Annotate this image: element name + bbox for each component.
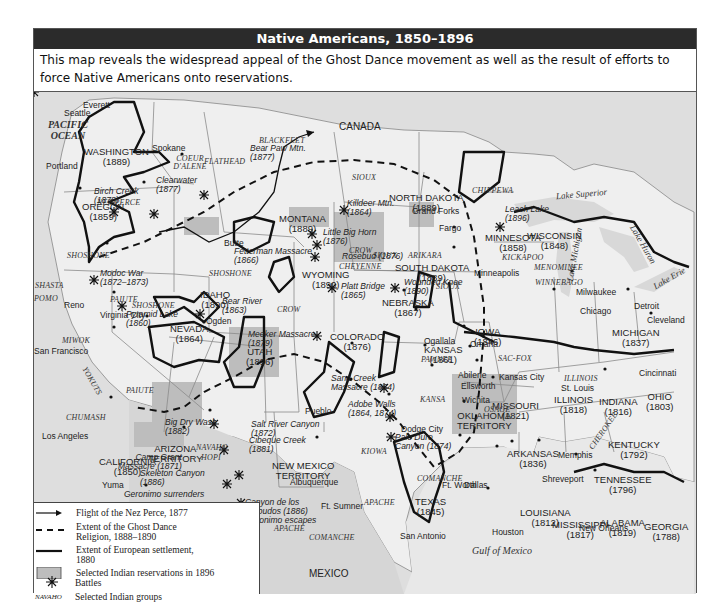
label-battle-rosebud: Rosebud (1876) xyxy=(342,252,403,261)
label-battle-modoc-war: Modoc War(1872–1873) xyxy=(100,269,148,287)
label-gulf-of-mexico: Gulf of Mexico xyxy=(472,546,532,557)
label-tribe-arikara: ARIKARA xyxy=(408,252,442,260)
label-city-pueblo: Pueblo xyxy=(305,407,331,416)
label-mexico: MEXICO xyxy=(309,569,348,580)
label-battle-leach-lake: Leach Lake(1896) xyxy=(505,205,549,223)
label-city-omaha: Omaha xyxy=(470,340,498,349)
label-tribe-sioux-1: SIOUX xyxy=(352,174,376,182)
label-state-utah: UTAH(1896) xyxy=(246,347,273,367)
map-title: Native Americans, 1850–1896 xyxy=(34,29,696,49)
label-battle-adobe-walls: Adobe Walls(1864, 1874) xyxy=(348,400,396,418)
label-tribe-navaho: NAVAHO xyxy=(196,444,228,452)
label-tribe-paiute-1: PAIUTE xyxy=(110,296,138,304)
label-city-ellsworth: Ellsworth xyxy=(461,382,495,391)
label-state-montana: MONTANA(1889) xyxy=(279,214,326,234)
label-tribe-kiowa: KIOWA xyxy=(361,448,387,456)
label-city-los-angeles: Los Angeles xyxy=(42,432,88,441)
label-tribe-crow-2: CROW xyxy=(277,306,300,314)
label-tribe-pawnee: PAWNEE xyxy=(421,356,452,364)
label-tribe-chippewa: CHIPPEWA xyxy=(472,187,513,195)
label-battle-clearwater: Clearwater(1877) xyxy=(156,176,197,194)
map-canvas: PACIFICOCEAN Gulf of Mexico CANADA MEXIC… xyxy=(34,91,696,594)
label-city-memphis: Memphis xyxy=(558,451,592,460)
label-battle-meeker: Meeker Massacre(1879) xyxy=(248,330,316,348)
label-tribe-apache-3: APACHE xyxy=(364,499,395,507)
solid-line-icon xyxy=(34,545,64,557)
label-city-ogden: Ogden xyxy=(206,317,232,326)
label-city-fargo: Fargo xyxy=(439,224,461,233)
map-figure: Native Americans, 1850–1896 This map rev… xyxy=(33,28,697,593)
label-tribe-kansa: KANSA xyxy=(420,396,445,404)
label-city-portland: Portland xyxy=(46,162,78,171)
label-city-milwaukee: Milwaukee xyxy=(576,288,616,297)
label-city-ft-sumner: Ft. Sumner xyxy=(321,502,363,511)
label-state-ohio: OHIO(1803) xyxy=(646,392,673,412)
label-city-san-antonio: San Antonio xyxy=(400,532,446,541)
label-tribe-shoshone-1: SHOSHONE xyxy=(67,252,110,260)
label-city-albuquerque: Albuquerque xyxy=(290,478,338,487)
group-sample-label: NAVAHO xyxy=(35,592,62,602)
label-tribe-flathead: FLATHEAD xyxy=(204,158,245,166)
label-canada: CANADA xyxy=(339,122,381,133)
label-city-wichita: Wichita xyxy=(462,396,490,405)
label-tribe-shasta: SHASTA xyxy=(35,282,64,290)
label-battle-skeleton-canyon: Skeleton Canyon(1886) xyxy=(140,469,205,487)
label-city-yuma: Yuma xyxy=(102,481,124,490)
label-tribe-menominee: MENOMINEE xyxy=(534,264,583,272)
label-tribe-apache-2: APACHE xyxy=(274,525,305,533)
label-state-michigan: MICHIGAN(1837) xyxy=(612,328,660,348)
label-city-reno: Reno xyxy=(64,301,84,310)
label-city-shreveport: Shreveport xyxy=(542,475,584,484)
label-tribe-miwok: MIWOK xyxy=(62,337,90,345)
label-battle-killdeer: Killdeer Mtn.(1864) xyxy=(347,199,394,217)
label-state-texas: TEXAS(1845) xyxy=(415,497,446,517)
label-city-ogallala: Ogallala xyxy=(424,337,455,346)
label-tribe-paiute-2: PAIUTE xyxy=(126,387,154,395)
label-city-new-orleans: New Orleans xyxy=(579,524,628,533)
label-city-cincinnati: Cincinnati xyxy=(639,369,676,378)
label-state-nebraska: NEBRASKA(1867) xyxy=(382,298,434,318)
label-battle-cibeque: Cibeque Creek(1881) xyxy=(249,436,306,454)
dashed-line-icon xyxy=(34,524,64,536)
label-tribe-comanche-2: COMANCHE xyxy=(417,475,463,483)
label-tribe-pomo: POMO xyxy=(34,295,58,303)
label-battle-pyramid-lake: Pyramid Lake(1860) xyxy=(126,310,178,328)
label-city-dallas: Dallas xyxy=(464,481,488,490)
arrow-line-icon xyxy=(34,507,64,519)
label-tribe-shoshone-2: SHOSHONE xyxy=(209,270,252,278)
label-tribe-chumash: CHUMASH xyxy=(66,414,106,422)
label-city-houston: Houston xyxy=(492,528,524,537)
label-battle-bear-paw: Bear Paw Mtn.(1877) xyxy=(250,144,306,162)
label-battle-sand-creek: Sand CreekMassacre (1864) xyxy=(331,374,395,392)
label-state-kentucky: KENTUCKY(1792) xyxy=(608,440,660,460)
label-city-kansas-city: Kansas City xyxy=(499,373,544,382)
label-tribe-comanche-1: COMANCHE xyxy=(309,534,355,542)
label-city-san-francisco: San Francisco xyxy=(34,347,88,356)
label-city-st-louis: St. Louis xyxy=(561,384,594,393)
label-city-abilene: Abilene xyxy=(458,371,486,380)
label-state-tennessee: TENNESSEE(1796) xyxy=(594,475,652,495)
label-city-chicago: Chicago xyxy=(580,307,611,316)
label-state-illinois: ILLINOIS(1818) xyxy=(554,395,593,415)
label-battle-birch-creek: Birch Creek(1878) xyxy=(94,187,138,205)
label-battle-geronimo-surrenders: Geronimo surrenders xyxy=(124,490,204,499)
label-battle-wounded-knee: Wounded Knee(1890) xyxy=(404,278,463,296)
label-state-arkansas: ARKANSAS(1836) xyxy=(507,449,559,469)
label-battle-little-big-horn: Little Big Horn(1876) xyxy=(323,228,376,246)
label-city-spokane: Spokane xyxy=(152,144,186,153)
label-tribe-coeur-dalene: COEUR D'ALENE xyxy=(170,155,210,172)
map-caption: This map reveals the widespread appeal o… xyxy=(40,51,690,87)
battle-icon xyxy=(37,576,67,588)
label-tribe-osage: OSAGE xyxy=(484,406,510,414)
label-tribe-cheyenne: CHEYENNE xyxy=(339,263,382,271)
label-tribe-hopi: HOPI xyxy=(201,454,221,462)
label-state-georgia: GEORGIA(1788) xyxy=(644,522,688,542)
label-tribe-kickapoo: KICKAPOO xyxy=(502,254,544,262)
label-city-seattle: Seattle xyxy=(64,109,90,118)
label-state-colorado: COLORADO(1876) xyxy=(330,332,384,352)
label-city-minneapolis: Minneapolis xyxy=(474,269,519,278)
label-battle-big-dry-wash: Big Dry Wash(1882) xyxy=(165,418,217,436)
label-state-wisconsin: WISCONSIN(1848) xyxy=(527,231,582,251)
label-battle-fetterman: Fetterman Massacre(1866) xyxy=(234,247,312,265)
label-city-grand-forks: Grand Forks xyxy=(412,207,459,216)
